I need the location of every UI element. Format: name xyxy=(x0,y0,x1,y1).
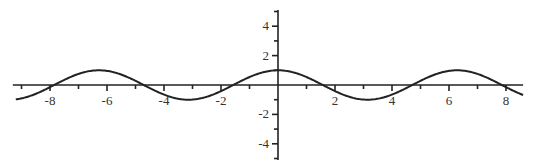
y-tick-label: -4 xyxy=(258,136,269,151)
y-tick-label: 2 xyxy=(263,48,270,63)
x-tick-label: -8 xyxy=(45,93,56,108)
x-tick-label: -6 xyxy=(102,93,113,108)
x-tick-label: 8 xyxy=(503,93,510,108)
x-tick-label: 6 xyxy=(446,93,453,108)
y-tick-label: 4 xyxy=(263,18,270,33)
x-tick-label: 2 xyxy=(332,93,339,108)
y-tick-label: -2 xyxy=(258,106,269,121)
x-tick-label: -2 xyxy=(216,93,227,108)
cosine-plot: -8-6-4-22468-4-224 xyxy=(0,0,537,163)
